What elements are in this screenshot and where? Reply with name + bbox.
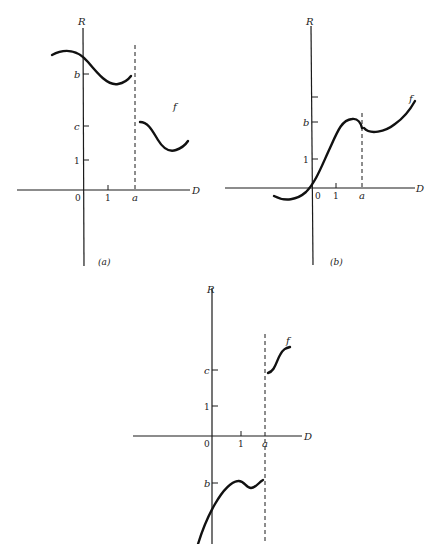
y-axis — [311, 26, 313, 265]
function-curve-left — [52, 51, 131, 84]
y-tick-label-c: c — [74, 121, 80, 132]
figure-canvas: R D 0 1 a 1 c b f (a) R D 0 1 a 1 b f (b… — [0, 0, 439, 544]
x-axis-label: D — [303, 431, 312, 442]
y-tick-label-c: c — [204, 365, 210, 376]
x-tick-label-a: a — [132, 192, 138, 203]
x-axis-label: D — [191, 185, 200, 196]
x-tick-label-a: a — [359, 190, 365, 201]
y-axis — [83, 28, 84, 266]
function-curve-right — [364, 101, 415, 132]
panel-caption: (a) — [98, 257, 111, 267]
origin-label: 0 — [315, 191, 321, 201]
x-tick-label-1: 1 — [333, 191, 339, 201]
panel-b: R D 0 1 a 1 b f (b) — [225, 16, 424, 267]
y-tick-label-b: b — [74, 69, 80, 80]
panel-a: R D 0 1 a 1 c b f (a) — [17, 16, 200, 267]
y-tick-label-1: 1 — [303, 155, 309, 165]
x-axis-label: D — [415, 183, 424, 194]
origin-label: 0 — [204, 439, 210, 449]
function-curve-right — [268, 347, 290, 373]
panel-caption: (b) — [330, 257, 343, 267]
function-curve-left — [198, 480, 263, 544]
function-label: f — [285, 335, 292, 346]
y-tick-label-1: 1 — [74, 156, 80, 166]
y-axis-label: R — [206, 284, 215, 295]
origin-label: 0 — [75, 193, 81, 203]
x-tick-label-1: 1 — [238, 439, 244, 449]
x-tick-label-a: a — [262, 438, 268, 449]
panel-c: R D 0 1 a 1 c b f — [133, 284, 312, 544]
y-tick-label-1: 1 — [204, 402, 210, 412]
function-label: f — [172, 101, 179, 112]
y-axis-label: R — [77, 16, 86, 27]
y-axis-label: R — [305, 16, 314, 27]
x-tick-label-1: 1 — [105, 193, 111, 203]
function-curve-right — [140, 122, 188, 151]
y-tick-label-b: b — [204, 478, 210, 489]
y-tick-label-b: b — [303, 117, 309, 128]
